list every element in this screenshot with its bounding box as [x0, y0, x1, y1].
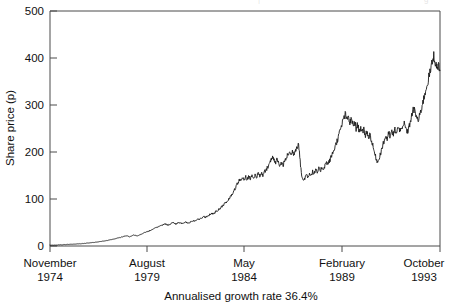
y-tick-label-400: 400	[25, 52, 44, 64]
y-tick-label-0: 0	[38, 240, 44, 252]
x-tickmarks	[50, 246, 440, 252]
x-tick-month-3: May	[233, 257, 255, 269]
y-tick-label-300: 300	[25, 99, 44, 111]
x-tick-year-2: 1979	[134, 271, 160, 283]
x-tick-year-3: 1984	[231, 271, 257, 283]
y-tickmarks	[50, 11, 57, 246]
x-tick-year-1: 1974	[37, 271, 63, 283]
x-tick-month-1: November	[23, 257, 76, 269]
y-tick-label-100: 100	[25, 193, 44, 205]
share-price-series-line	[50, 52, 440, 246]
y-tick-label-500: 500	[25, 5, 44, 17]
axis-spines	[50, 11, 440, 246]
x-tick-month-4: February	[319, 257, 365, 269]
x-tick-labels: November 1974 August 1979 May 1984 Febru…	[23, 257, 444, 283]
y-tick-labels: 0 100 200 300 400 500	[25, 5, 44, 252]
x-tick-month-5: October	[404, 257, 445, 269]
figure-root: | g 0 100 200 300 400 500 Share price (p…	[0, 0, 453, 306]
y-tick-label-200: 200	[25, 146, 44, 158]
x-tick-year-4: 1989	[329, 271, 355, 283]
x-tick-year-5: 1993	[411, 271, 437, 283]
x-tick-month-2: August	[129, 257, 166, 269]
share-price-line-chart: 0 100 200 300 400 500 Share price (p) No…	[0, 0, 453, 306]
chart-caption: Annualised growth rate 36.4%	[164, 290, 317, 302]
y-axis-title: Share price (p)	[4, 90, 16, 166]
